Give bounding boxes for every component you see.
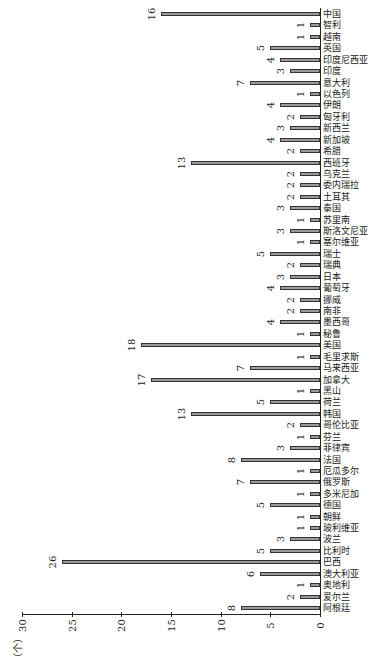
bar <box>280 103 320 107</box>
data-label: 4 <box>266 52 276 68</box>
bar <box>270 252 320 256</box>
bar <box>310 389 320 393</box>
bar <box>270 549 320 553</box>
category-label: 朝鲜 <box>323 513 341 522</box>
category-label: 南非 <box>323 307 341 316</box>
data-label: 3 <box>276 200 286 216</box>
data-label: 2 <box>286 589 296 605</box>
data-label: 26 <box>48 554 58 570</box>
bar <box>300 115 320 119</box>
data-label: 2 <box>286 417 296 433</box>
data-label: 2 <box>286 109 296 125</box>
category-label: 意大利 <box>323 79 350 88</box>
bar <box>310 23 320 27</box>
category-label: 法国 <box>323 456 341 465</box>
category-label: 比利时 <box>323 547 350 556</box>
category-label: 韩国 <box>323 410 341 419</box>
bar <box>161 12 320 16</box>
data-label: 1 <box>296 234 306 250</box>
data-label: 17 <box>137 372 147 388</box>
category-label: 瑞士 <box>323 250 341 259</box>
category-label: 芬兰 <box>323 433 341 442</box>
data-label: 8 <box>227 600 237 616</box>
category-label: 苏里南 <box>323 216 350 225</box>
bar <box>290 126 320 130</box>
tick-label: 25 <box>66 616 77 636</box>
tick-label: 5 <box>265 616 276 636</box>
bar <box>300 298 320 302</box>
data-label: 3 <box>276 269 286 285</box>
data-label: 2 <box>286 257 296 273</box>
category-label: 匈牙利 <box>323 113 350 122</box>
category-label: 新加坡 <box>323 136 350 145</box>
category-label: 黑山 <box>323 387 341 396</box>
bar <box>241 458 320 462</box>
category-label: 加拿大 <box>323 376 350 385</box>
data-label: 1 <box>296 212 306 228</box>
category-label: 葡萄牙 <box>323 284 350 293</box>
bar <box>300 172 320 176</box>
bar <box>300 309 320 313</box>
category-label: 中国 <box>323 10 341 19</box>
bar <box>270 46 320 50</box>
data-label: 1 <box>296 86 306 102</box>
data-label: 1 <box>296 429 306 445</box>
category-label: 毛里求斯 <box>323 353 359 362</box>
data-label: 2 <box>286 143 296 159</box>
data-label: 8 <box>227 452 237 468</box>
bar <box>310 218 320 222</box>
category-label: 美国 <box>323 341 341 350</box>
data-label: 1 <box>296 463 306 479</box>
bar <box>270 400 320 404</box>
category-label: 希腊 <box>323 147 341 156</box>
tick-label: 20 <box>116 616 127 636</box>
data-label: 3 <box>276 223 286 239</box>
category-label: 俄罗斯 <box>323 478 350 487</box>
data-label: 5 <box>256 40 266 56</box>
bar <box>250 480 320 484</box>
bar <box>300 423 320 427</box>
bar <box>141 343 320 347</box>
category-label: 秘鲁 <box>323 330 341 339</box>
data-label: 5 <box>256 497 266 513</box>
bar <box>191 161 320 165</box>
category-label: 委内瑞拉 <box>323 181 359 190</box>
category-label: 巴西 <box>323 558 341 567</box>
category-label: 马来西亚 <box>323 364 359 373</box>
bar <box>300 149 320 153</box>
category-label: 日本 <box>323 273 341 282</box>
category-label: 印度尼西亚 <box>323 56 368 65</box>
bar <box>260 572 320 576</box>
tick-label: 15 <box>166 616 177 636</box>
category-label: 瑞典 <box>323 261 341 270</box>
tick-label: 10 <box>215 616 226 636</box>
data-label: 1 <box>296 17 306 33</box>
bar <box>290 69 320 73</box>
bar <box>290 446 320 450</box>
tick-label: 0 <box>315 616 326 636</box>
bar <box>300 595 320 599</box>
category-label: 厄瓜多尔 <box>323 467 359 476</box>
data-label: 5 <box>256 394 266 410</box>
category-label: 德国 <box>323 501 341 510</box>
data-label: 18 <box>127 337 137 353</box>
category-label: 菲律宾 <box>323 444 350 453</box>
bar <box>151 378 320 382</box>
bar <box>280 58 320 62</box>
bar <box>241 606 320 610</box>
bar <box>310 515 320 519</box>
data-label: 3 <box>276 120 286 136</box>
bar <box>290 206 320 210</box>
data-label: 2 <box>286 166 296 182</box>
data-label: 5 <box>256 246 266 262</box>
category-label: 以色列 <box>323 90 350 99</box>
bar <box>300 195 320 199</box>
category-axis-line <box>320 8 321 615</box>
data-label: 1 <box>296 383 306 399</box>
category-label: 新西兰 <box>323 124 350 133</box>
bar <box>310 240 320 244</box>
bar <box>62 560 320 564</box>
category-label: 奥地利 <box>323 581 350 590</box>
data-label: 13 <box>177 406 187 422</box>
bar <box>290 537 320 541</box>
